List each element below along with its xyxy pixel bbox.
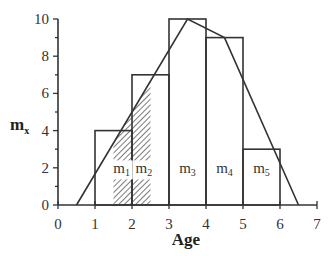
axes: 012345670246810 bbox=[34, 11, 321, 232]
y-tick-label: 10 bbox=[34, 11, 49, 27]
segment-labels: m1m2m3m4m5 bbox=[111, 160, 273, 179]
x-tick-label: 7 bbox=[313, 216, 321, 232]
x-tick-label: 5 bbox=[239, 216, 247, 232]
y-tick-label: 8 bbox=[42, 48, 50, 64]
histogram-bar bbox=[206, 38, 243, 205]
chart: m1m2m3m4m5 012345670246810 mx Age bbox=[0, 0, 329, 256]
y-tick-label: 2 bbox=[42, 160, 50, 176]
y-tick-label: 0 bbox=[42, 197, 50, 213]
x-tick-label: 6 bbox=[276, 216, 284, 232]
x-axis-title: Age bbox=[172, 230, 201, 249]
x-tick-label: 4 bbox=[202, 216, 210, 232]
x-tick-label: 1 bbox=[91, 216, 99, 232]
y-axis-title: mx bbox=[10, 115, 29, 136]
x-tick-label: 0 bbox=[54, 216, 62, 232]
y-tick-label: 6 bbox=[42, 85, 50, 101]
y-tick-label: 4 bbox=[42, 123, 50, 139]
x-tick-label: 2 bbox=[128, 216, 136, 232]
